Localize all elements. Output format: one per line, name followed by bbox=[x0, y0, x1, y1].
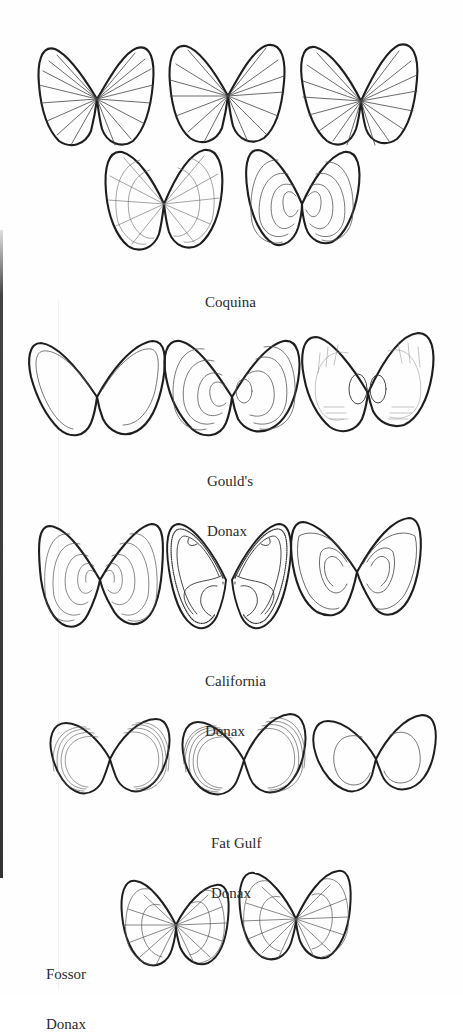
label-california-donax-line-1: California bbox=[205, 673, 266, 690]
fat-gulf-donax-specimen-3 bbox=[313, 715, 436, 791]
label-california-donax-line-2: Donax bbox=[205, 723, 266, 740]
label-fossor-donax-line-2: Donax bbox=[46, 1016, 86, 1033]
label-california-donax: California Donax bbox=[205, 640, 266, 772]
label-fossor-donax-line-1: Fossor bbox=[46, 966, 86, 983]
coquina-specimen-2 bbox=[170, 45, 285, 142]
coquina-specimen-1 bbox=[39, 47, 154, 145]
coquina-specimen-4 bbox=[106, 150, 223, 250]
california-donax-specimen-3 bbox=[291, 518, 421, 615]
coquina-specimen-5 bbox=[246, 150, 359, 245]
label-goulds-donax: Gould's Donax bbox=[207, 440, 253, 572]
label-fat-gulf-donax: Fat Gulf Donax bbox=[211, 802, 261, 934]
goulds-donax-specimen-3 bbox=[302, 333, 433, 431]
label-fossor-donax: Fossor Donax bbox=[46, 933, 86, 1033]
fat-gulf-donax-specimen-1 bbox=[51, 719, 170, 793]
coquina-specimen-3 bbox=[301, 44, 417, 145]
goulds-donax-specimen-2 bbox=[165, 341, 300, 435]
goulds-donax-specimen-1 bbox=[29, 341, 165, 435]
label-coquina-line-1: Coquina bbox=[205, 294, 256, 311]
label-fat-gulf-donax-line-2: Donax bbox=[211, 885, 261, 902]
label-goulds-donax-line-1: Gould's bbox=[207, 473, 253, 490]
california-donax-specimen-1 bbox=[39, 524, 163, 627]
label-coquina: Coquina bbox=[205, 261, 256, 344]
label-fat-gulf-donax-line-1: Fat Gulf bbox=[211, 835, 261, 852]
label-goulds-donax-line-2: Donax bbox=[207, 523, 253, 540]
